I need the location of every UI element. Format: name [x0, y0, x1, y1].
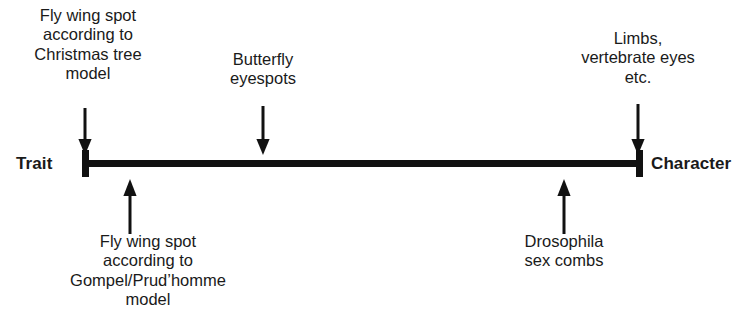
arrow-up-icon-drosophila-sex-combs [553, 178, 575, 234]
annotation-limbs-vertebrate-eyes: Limbs, vertebrate eyes etc. [581, 29, 695, 87]
annotation-butterfly-eyespots: Butterfly eyespots [230, 50, 296, 89]
arrow-up-icon-gompel-prudhomme [119, 178, 141, 234]
annotation-line: eyespots [230, 69, 296, 88]
annotation-line: according to [70, 251, 226, 270]
axis-right-pole-label: Character [651, 155, 731, 172]
annotation-line: Gompel/Prud’homme [70, 271, 226, 290]
annotation-line: Drosophila [525, 232, 604, 251]
annotation-line: Christmas tree [34, 45, 141, 64]
diagram-canvas: Trait Character Fly wing spot according … [0, 0, 754, 334]
trait-character-axis-line [85, 160, 640, 167]
annotation-line: sex combs [525, 251, 604, 270]
annotation-drosophila-sex-combs: Drosophila sex combs [525, 232, 604, 271]
annotation-line: Fly wing spot [34, 6, 141, 25]
annotation-line: according to [34, 25, 141, 44]
arrow-down-icon-limbs-vertebrate-eyes [627, 104, 649, 156]
annotation-line: etc. [581, 68, 695, 87]
annotation-line: Fly wing spot [70, 232, 226, 251]
annotation-line: vertebrate eyes [581, 48, 695, 67]
annotation-line: model [34, 64, 141, 83]
annotation-line: model [70, 290, 226, 309]
annotation-line: Limbs, [581, 29, 695, 48]
annotation-line: Butterfly [230, 50, 296, 69]
annotation-gompel-prudhomme: Fly wing spot according to Gompel/Prud’h… [70, 232, 226, 309]
annotation-christmas-tree: Fly wing spot according to Christmas tre… [34, 6, 141, 83]
axis-left-pole-label: Trait [16, 155, 52, 172]
arrow-down-icon-christmas-tree [74, 108, 96, 156]
arrow-down-icon-butterfly-eyespots [252, 106, 274, 156]
